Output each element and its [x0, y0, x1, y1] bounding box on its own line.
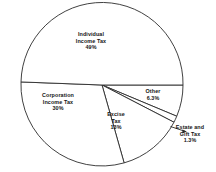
pie-label-individual-income-tax-percent: 49%: [58, 44, 124, 51]
pie-label-estate-and-gift-tax-line2: Gift Tax: [166, 131, 214, 138]
pie-label-estate-and-gift-tax-line1: Estate and: [166, 124, 214, 131]
pie-label-corporation-income-tax-percent: 30%: [25, 105, 91, 112]
pie-label-estate-and-gift-tax-percent: 1.3%: [166, 137, 214, 144]
pie-label-corporation-income-tax-line1: Corporation: [25, 92, 91, 99]
pie-label-individual-income-tax-line2: Income Tax: [58, 38, 124, 45]
pie-label-other: Other 6.3%: [132, 88, 174, 101]
pie-label-estate-and-gift-tax: Estate and Gift Tax 1.3%: [166, 124, 214, 144]
pie-label-other-percent: 6.3%: [132, 95, 174, 102]
pie-chart: Individual Income Tax 49% Corporation In…: [0, 0, 216, 172]
pie-label-individual-income-tax: Individual Income Tax 49%: [58, 31, 124, 51]
pie-label-corporation-income-tax-line2: Income Tax: [25, 99, 91, 106]
pie-label-excise-tax-percent: 13%: [98, 124, 134, 131]
pie-label-individual-income-tax-line1: Individual: [58, 31, 124, 38]
pie-label-excise-tax-line1: Excise: [98, 111, 134, 118]
pie-chart-graphic: [0, 0, 216, 172]
pie-label-corporation-income-tax: Corporation Income Tax 30%: [25, 92, 91, 112]
pie-label-excise-tax-line2: Tax: [98, 118, 134, 125]
pie-label-excise-tax: Excise Tax 13%: [98, 111, 134, 131]
pie-label-other-line1: Other: [132, 88, 174, 95]
